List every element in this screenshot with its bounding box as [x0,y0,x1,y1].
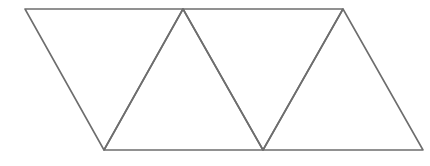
triangle-t4 [263,9,423,150]
triangle-t1 [25,9,183,150]
triangle-t2 [104,9,263,150]
diagram-edges [25,9,423,150]
triangle-t3 [183,9,343,150]
diagram-svg [0,0,430,166]
triangle-strip-diagram [0,0,430,166]
